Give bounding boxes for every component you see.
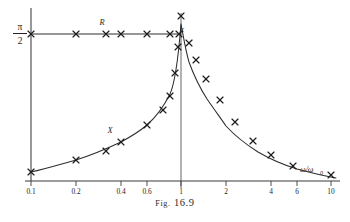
y-axis-label-numerator: π <box>18 22 23 32</box>
figure-caption: Fig. 16.9 <box>0 197 350 208</box>
x-tick-label-8: 10 <box>327 187 335 196</box>
x-tick-label-4: 1 <box>179 187 183 196</box>
x-tick-label-6: 4 <box>269 187 273 196</box>
reactance-peak-label: X <box>179 26 185 33</box>
figure-container: 0.1 0.2 0.4 0.6 1 2 4 6 10 π 2 ω/ω 0 <box>0 0 350 222</box>
x-tick-label-0: 0.1 <box>26 187 36 196</box>
y-axis-label-denominator: 2 <box>18 36 23 46</box>
x-tick-label-1: 0.2 <box>71 187 81 196</box>
figure-caption-number: 16.9 <box>174 197 195 208</box>
phase-angle-plot: 0.1 0.2 0.4 0.6 1 2 4 6 10 π 2 ω/ω 0 <box>0 0 350 222</box>
x-tick-label-3: 0.6 <box>142 187 152 196</box>
figure-caption-prefix: Fig. <box>155 199 170 208</box>
reactance-curve <box>31 24 336 178</box>
resistance-curve-label: R <box>98 18 104 27</box>
y-axis-label: π 2 <box>13 22 27 46</box>
x-tick-label-2: 0.4 <box>116 187 126 196</box>
x-tick-label-7: 6 <box>295 187 299 196</box>
x-tick-marks <box>31 181 331 186</box>
x-tick-label-5: 2 <box>224 187 228 196</box>
reactance-curve-label: X <box>106 126 113 135</box>
